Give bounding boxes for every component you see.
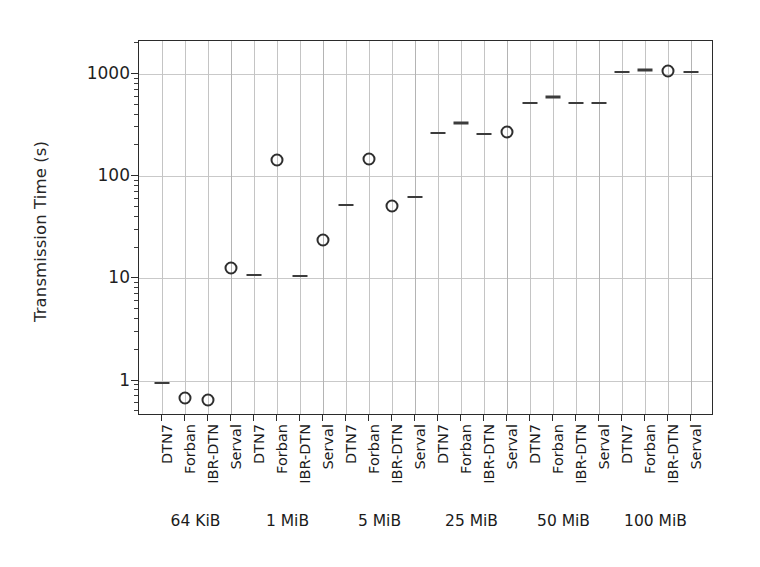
x-axis-tick (529, 415, 530, 421)
data-point-marker (615, 71, 630, 73)
y-axis-minor-tick (134, 300, 139, 301)
y-axis-minor-tick (134, 180, 139, 181)
y-axis-minor-tick (134, 114, 139, 115)
x-axis-tick-label: IBR-DTN (665, 424, 681, 484)
y-gridline (139, 74, 712, 75)
x-axis-tick-label: DTN7 (435, 424, 451, 464)
x-axis-tick-label: Forban (550, 424, 566, 474)
y-gridline (139, 381, 712, 382)
x-gridline (185, 41, 186, 414)
y-axis-minor-tick (134, 293, 139, 294)
x-gridline (576, 41, 577, 414)
x-gridline (599, 41, 600, 414)
x-axis-tick-label: DTN7 (619, 424, 635, 464)
y-axis-tick-label: 100 (98, 165, 130, 185)
y-axis-minor-tick (134, 308, 139, 309)
x-gridline (300, 41, 301, 414)
x-gridline (438, 41, 439, 414)
y-axis-minor-tick (134, 282, 139, 283)
data-point-marker (684, 71, 699, 73)
data-point-marker (339, 204, 354, 206)
x-axis-tick (414, 415, 415, 421)
x-axis-tick (345, 415, 346, 421)
x-axis-tick (644, 415, 645, 421)
data-point-marker (247, 274, 262, 276)
x-axis-tick-label: IBR-DTN (389, 424, 405, 484)
x-axis-tick-label: Serval (596, 424, 612, 470)
x-gridline (622, 41, 623, 414)
x-gridline (461, 41, 462, 414)
data-point-marker (155, 382, 170, 384)
x-axis-tick (276, 415, 277, 421)
x-axis-tick-label: Serval (228, 424, 244, 470)
y-axis-tick-label: 1000 (87, 63, 130, 83)
x-gridline (392, 41, 393, 414)
y-axis-minor-tick (134, 126, 139, 127)
data-point-marker (569, 102, 584, 104)
y-axis-major-tick (131, 175, 138, 176)
x-gridline (507, 41, 508, 414)
x-axis-tick (391, 415, 392, 421)
data-point-circle (662, 64, 675, 77)
y-axis-minor-tick (134, 318, 139, 319)
y-axis-minor-tick (134, 389, 139, 390)
y-axis-minor-tick (134, 185, 139, 186)
y-axis-minor-tick (134, 42, 139, 43)
y-axis-minor-tick (134, 349, 139, 350)
x-axis-tick-label: Serval (504, 424, 520, 470)
x-axis-tick-label: IBR-DTN (205, 424, 221, 484)
x-axis-tick-label: Forban (182, 424, 198, 474)
data-point-marker (431, 132, 446, 134)
x-axis-tick (184, 415, 185, 421)
data-point-circle (386, 200, 399, 213)
x-axis-tick (368, 415, 369, 421)
x-gridline (668, 41, 669, 414)
data-point-marker (638, 69, 653, 72)
x-axis-tick-label: IBR-DTN (573, 424, 589, 484)
data-point-marker (293, 275, 308, 277)
data-point-marker (454, 122, 469, 125)
data-point-circle (501, 125, 514, 138)
x-gridline (369, 41, 370, 414)
x-axis-group-label: 1 MiB (266, 512, 309, 530)
x-axis-tick-label: IBR-DTN (297, 424, 313, 484)
x-axis-tick-label: Forban (458, 424, 474, 474)
x-axis-tick (253, 415, 254, 421)
x-gridline (691, 41, 692, 414)
y-axis-minor-tick (134, 191, 139, 192)
x-axis-tick (483, 415, 484, 421)
y-axis-major-tick (131, 380, 138, 381)
x-axis-tick-label: Serval (320, 424, 336, 470)
y-axis-minor-tick (134, 96, 139, 97)
y-axis-minor-tick (134, 216, 139, 217)
x-axis-tick (437, 415, 438, 421)
x-gridline (645, 41, 646, 414)
x-axis-tick-label: DTN7 (159, 424, 175, 464)
x-axis-tick (506, 415, 507, 421)
x-axis-tick (667, 415, 668, 421)
x-axis-tick-label: Serval (688, 424, 704, 470)
data-point-circle (271, 153, 284, 166)
y-axis-minor-tick (134, 198, 139, 199)
x-axis-tick-label: IBR-DTN (481, 424, 497, 484)
y-axis-minor-tick (134, 287, 139, 288)
y-axis-minor-tick (134, 410, 139, 411)
x-axis-tick-label: Forban (642, 424, 658, 474)
x-gridline (208, 41, 209, 414)
x-axis-tick (552, 415, 553, 421)
data-point-circle (202, 394, 215, 407)
y-axis-minor-tick (134, 144, 139, 145)
y-axis-major-tick (131, 277, 138, 278)
x-axis-tick-label: DTN7 (527, 424, 543, 464)
data-point-marker (477, 133, 492, 135)
data-point-marker (523, 102, 538, 104)
x-gridline (415, 41, 416, 414)
x-gridline (530, 41, 531, 414)
x-gridline (231, 41, 232, 414)
x-axis-tick (207, 415, 208, 421)
y-axis-minor-tick (134, 247, 139, 248)
data-point-circle (317, 234, 330, 247)
y-gridline (139, 176, 712, 177)
y-axis-minor-tick (134, 83, 139, 84)
data-point-circle (179, 391, 192, 404)
